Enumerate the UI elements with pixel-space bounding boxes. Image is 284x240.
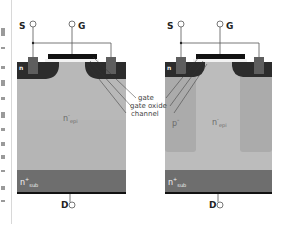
gate-oxide <box>45 59 99 62</box>
left-drain-label: D <box>61 201 68 210</box>
right-gate-label: G <box>226 22 233 31</box>
right-drain-label: D <box>209 201 216 210</box>
right-n-plus-label: n <box>167 65 171 71</box>
callout-gate-oxide: gate oxide <box>130 103 167 110</box>
right-n-sub-label: n+sub <box>168 177 186 188</box>
gate-terminal-icon <box>69 21 75 27</box>
right-source-label: S <box>167 22 173 31</box>
left-gate-label: G <box>78 22 85 31</box>
p-body-right <box>232 62 272 77</box>
n-plus-source-left <box>28 57 38 74</box>
drain-metal <box>17 192 126 194</box>
source-terminal-icon <box>178 21 184 27</box>
right-n-epi-label: n-epi <box>212 117 227 128</box>
left-n-sub-label: n+sub <box>20 177 38 188</box>
gate-terminal-icon <box>217 21 223 27</box>
left-n-plus-label: n <box>19 65 23 71</box>
p-body-right <box>85 62 126 79</box>
gate-electrode <box>48 54 97 59</box>
n-plus-source-left <box>176 57 186 74</box>
right-p-column-label: p- <box>172 117 179 128</box>
callout-channel: channel <box>131 111 159 118</box>
n-plus-source-right <box>254 57 264 74</box>
left-source-label: S <box>19 22 25 31</box>
source-terminal-icon <box>30 21 36 27</box>
drain-metal <box>165 192 272 194</box>
n-plus-source-right <box>106 57 116 74</box>
callout-gate: gate <box>138 95 154 102</box>
gate-oxide <box>193 59 247 62</box>
drain-terminal-icon <box>217 202 223 208</box>
drain-terminal-icon <box>69 202 75 208</box>
left-n-epi-label: n-epi <box>63 113 78 124</box>
gate-electrode <box>196 54 245 59</box>
